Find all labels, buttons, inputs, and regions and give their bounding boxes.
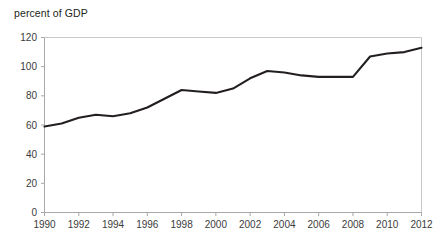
x-tick-label: 2008 [342,219,365,230]
x-tick-label: 1992 [68,219,91,230]
x-tick-label: 2000 [205,219,228,230]
x-axis-ticks [45,213,422,217]
x-tick-label: 1994 [102,219,125,230]
x-tick-label: 2010 [376,219,399,230]
chart-container: percent of GDP 020406080100120 199019921… [0,0,440,243]
y-tick-label: 60 [26,120,38,131]
y-tick-label: 0 [31,207,37,218]
data-series-line [45,48,422,127]
y-axis-labels: 020406080100120 [20,32,37,218]
y-tick-label: 100 [20,61,37,72]
y-tick-label: 40 [26,149,38,160]
x-tick-label: 2004 [273,219,296,230]
chart-plot-svg: 020406080100120 199019921994199619982000… [0,0,440,243]
x-tick-label: 1998 [170,219,193,230]
y-axis-ticks [41,38,45,213]
x-tick-label: 1990 [33,219,56,230]
y-tick-label: 120 [20,32,37,43]
x-tick-label: 2002 [239,219,262,230]
x-axis-labels: 1990199219941996199820002002200420062008… [33,219,433,230]
x-tick-label: 1996 [136,219,159,230]
y-tick-label: 80 [26,90,38,101]
x-tick-label: 2012 [410,219,433,230]
x-tick-label: 2006 [308,219,331,230]
y-tick-label: 20 [26,178,38,189]
